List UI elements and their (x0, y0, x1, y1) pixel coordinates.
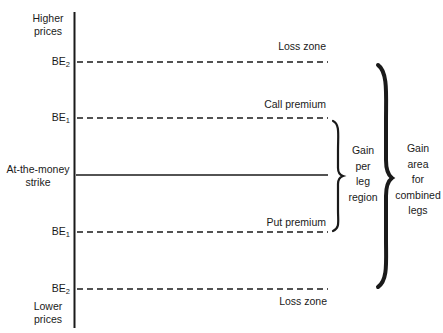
gain-combined-line-5: legs (392, 203, 443, 219)
be-subscript: 1 (66, 230, 70, 239)
be-text: BE (52, 225, 66, 237)
call-premium-label: Call premium (200, 98, 326, 111)
gain-combined-line-1: Gain (392, 141, 443, 157)
loss-zone-upper-label: Loss zone (200, 40, 326, 53)
be-text: BE (52, 55, 66, 67)
atm-line-1: At-the-money (4, 163, 72, 176)
gain-combined-line-3: for (392, 172, 443, 188)
higher-prices-line-1: Higher (26, 12, 70, 25)
gain-combined-line-4: combined (392, 188, 443, 204)
gain-per-leg-line-1: Gain (343, 143, 383, 159)
put-premium-label: Put premium (200, 216, 326, 229)
atm-strike-label: At-the-money strike (4, 163, 72, 189)
gain-per-leg-line-4: region (343, 190, 383, 206)
gain-combined-line-2: area (392, 157, 443, 173)
be-text: BE (52, 282, 66, 294)
gain-per-leg-brace (333, 121, 343, 231)
be2-upper-label: BE2 (30, 55, 70, 71)
gain-per-leg-label: Gain per leg region (343, 143, 383, 205)
loss-zone-lower-label: Loss zone (200, 295, 327, 308)
lower-prices-line-1: Lower (26, 300, 70, 313)
be2-lower-label: BE2 (30, 282, 70, 298)
lower-prices-label: Lower prices (26, 300, 70, 326)
gain-combined-label: Gain area for combined legs (392, 141, 443, 219)
be-subscript: 1 (66, 116, 70, 125)
lower-prices-line-2: prices (26, 313, 70, 326)
higher-prices-line-2: prices (26, 25, 70, 38)
be-text: BE (52, 111, 66, 123)
be1-upper-label: BE1 (30, 111, 70, 127)
be-subscript: 2 (66, 287, 70, 296)
gain-per-leg-line-3: leg (343, 174, 383, 190)
gain-per-leg-line-2: per (343, 159, 383, 175)
higher-prices-label: Higher prices (26, 12, 70, 38)
atm-line-2: strike (4, 176, 72, 189)
be-subscript: 2 (66, 60, 70, 69)
be1-lower-label: BE1 (30, 225, 70, 241)
